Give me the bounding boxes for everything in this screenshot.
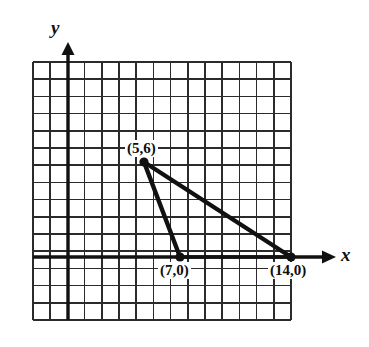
vertex-dot-14-0 xyxy=(286,252,295,261)
x-axis-label: x xyxy=(341,245,351,264)
y-axis-label: y xyxy=(51,18,59,37)
graph-canvas xyxy=(0,0,369,347)
triangle-edge-hypotenuse xyxy=(144,162,291,257)
vertex-dot-7-0 xyxy=(175,252,184,261)
vertex-dot-5-6 xyxy=(139,157,148,166)
triangle-shape xyxy=(144,162,291,257)
vertex-label-14-0: (14,0) xyxy=(268,262,308,279)
coordinate-grid-figure: (5,6) (7,0) (14,0) y x xyxy=(0,0,369,347)
vertex-label-5-6: (5,6) xyxy=(125,140,158,157)
y-axis xyxy=(62,42,75,320)
vertex-label-7-0: (7,0) xyxy=(158,262,191,279)
grid-lines xyxy=(33,62,291,320)
